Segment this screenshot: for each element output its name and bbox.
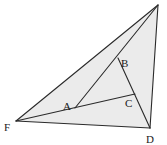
- geometry-diagram: F D A B C: [0, 0, 167, 145]
- label-c: C: [125, 97, 132, 109]
- triangle-figure: F D A B C: [0, 0, 167, 145]
- label-b: B: [121, 57, 128, 69]
- label-a: A: [63, 100, 71, 112]
- label-f: F: [4, 121, 10, 133]
- outer-triangle-fill: [16, 5, 158, 128]
- label-d: D: [146, 133, 154, 145]
